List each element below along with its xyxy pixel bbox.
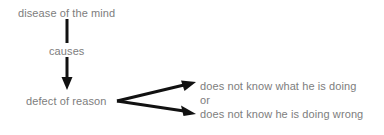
list-item: or (200, 93, 363, 107)
outcome-arrow-upper-head (181, 81, 196, 92)
node-disease-of-the-mind: disease of the mind (18, 7, 115, 19)
outcome-arrow-upper-line (117, 85, 184, 101)
list-item: does not know what he is doing (200, 79, 363, 93)
causes-arrow-head (62, 77, 73, 90)
outcome-list: does not know what he is doing or does n… (200, 79, 363, 121)
edge-label-causes: causes (49, 45, 84, 57)
outcome-arrow-lower-line (117, 101, 184, 111)
flow-diagram: disease of the mind causes defect of rea… (0, 0, 384, 135)
list-item: does not know he is doing wrong (200, 107, 363, 121)
node-defect-of-reason: defect of reason (26, 95, 107, 107)
outcome-arrow-lower-head (181, 106, 196, 117)
